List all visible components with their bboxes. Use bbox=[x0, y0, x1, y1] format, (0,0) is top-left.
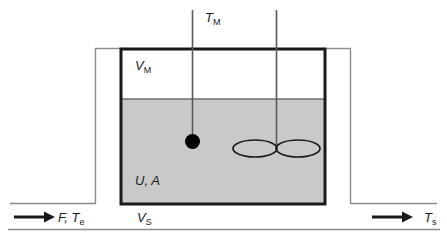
outlet-arrow-head-icon bbox=[402, 212, 413, 223]
liquid-volume-label: VS bbox=[137, 210, 152, 227]
measured-temperature-label: TM bbox=[205, 10, 220, 27]
outlet-temperature-label: Ts bbox=[424, 210, 437, 227]
tank-headspace bbox=[121, 49, 325, 99]
tank-liquid-body bbox=[121, 99, 325, 204]
inlet-arrow-head-icon bbox=[44, 212, 55, 223]
stirred-tank-heater-diagram: TM VM U, A VS F, Te Ts bbox=[0, 0, 447, 243]
thermometer-bulb-icon bbox=[185, 134, 200, 149]
inlet-flow-arrow bbox=[14, 212, 55, 223]
heat-transfer-label: U, A bbox=[135, 173, 160, 188]
outlet-flow-arrow bbox=[372, 212, 413, 223]
inlet-stream-label: F, Te bbox=[58, 210, 84, 227]
